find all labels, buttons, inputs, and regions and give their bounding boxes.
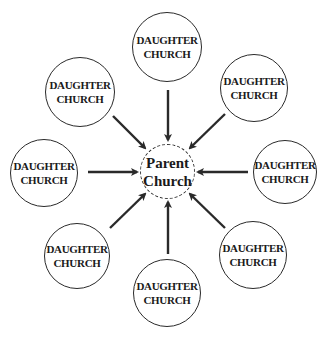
- daughter-label-line2: CHURCH: [261, 172, 308, 186]
- church-diagram: Parent Church DAUGHTER CHURCH DAUGHTER C…: [0, 0, 329, 340]
- daughter-church-top-right: DAUGHTER CHURCH: [220, 54, 288, 122]
- daughter-church-right: DAUGHTER CHURCH: [253, 140, 317, 204]
- daughter-church-left: DAUGHTER CHURCH: [10, 139, 78, 207]
- arrow-top-left: [113, 116, 145, 148]
- daughter-church-top: DAUGHTER CHURCH: [132, 12, 202, 82]
- daughter-label-line1: DAUGHTER: [223, 74, 284, 88]
- arrow-bottom-left: [110, 194, 145, 228]
- daughter-church-bottom-right: DAUGHTER CHURCH: [219, 221, 287, 289]
- daughter-label-line1: DAUGHTER: [46, 242, 107, 256]
- daughter-label-line1: DAUGHTER: [222, 241, 283, 255]
- daughter-label-line2: CHURCH: [143, 47, 190, 61]
- daughter-label-line1: DAUGHTER: [136, 279, 197, 293]
- parent-label-line1: Parent: [146, 154, 189, 172]
- parent-church-node: Parent Church: [140, 144, 195, 199]
- daughter-church-top-left: DAUGHTER CHURCH: [45, 57, 115, 127]
- daughter-label-line2: CHURCH: [229, 255, 276, 269]
- daughter-label-line2: CHURCH: [230, 88, 277, 102]
- daughter-label-line2: CHURCH: [20, 173, 67, 187]
- daughter-label-line1: DAUGHTER: [49, 78, 110, 92]
- daughter-label-line1: DAUGHTER: [136, 33, 197, 47]
- daughter-church-bottom-left: DAUGHTER CHURCH: [44, 223, 110, 289]
- arrow-top-right: [190, 114, 225, 148]
- daughter-label-line2: CHURCH: [56, 92, 103, 106]
- daughter-label-line1: DAUGHTER: [13, 159, 74, 173]
- daughter-church-bottom: DAUGHTER CHURCH: [133, 259, 201, 327]
- arrow-bottom-right: [190, 194, 225, 228]
- parent-label-line2: Church: [143, 172, 192, 190]
- daughter-label-line2: CHURCH: [143, 293, 190, 307]
- daughter-label-line1: DAUGHTER: [254, 158, 315, 172]
- daughter-label-line2: CHURCH: [53, 256, 100, 270]
